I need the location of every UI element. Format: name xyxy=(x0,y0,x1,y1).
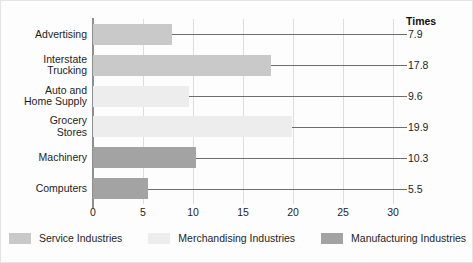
value-label: 9.6 xyxy=(408,90,423,102)
value-leader-line xyxy=(189,96,407,97)
x-axis-tick-labels: 051015202530 xyxy=(93,206,393,222)
gridline-30 xyxy=(393,19,394,204)
legend-label: Manufacturing Industries xyxy=(351,232,466,244)
x-tick-label-25: 25 xyxy=(337,206,349,218)
x-tick-label-5: 5 xyxy=(140,206,146,218)
legend-label: Service Industries xyxy=(39,232,122,244)
value-label: 17.8 xyxy=(408,59,428,71)
legend-label: Merchandising Industries xyxy=(178,232,295,244)
value-leader-line xyxy=(292,127,407,128)
category-label-line: Advertising xyxy=(1,29,87,41)
bar-auto-and-home-supply xyxy=(93,86,189,107)
category-label-line: Machinery xyxy=(1,152,87,164)
x-tick-label-15: 15 xyxy=(237,206,249,218)
value-leader-line xyxy=(172,34,407,35)
category-label-line: Trucking xyxy=(1,65,87,77)
gridline-15 xyxy=(243,19,244,204)
x-tick-label-30: 30 xyxy=(387,206,399,218)
gridline-5 xyxy=(143,19,144,204)
value-label: 5.5 xyxy=(408,183,423,195)
category-label: InterstateTrucking xyxy=(1,54,87,77)
category-label-line: Computers xyxy=(1,183,87,195)
legend-entry: Manufacturing Industries xyxy=(321,232,466,244)
category-axis-labels: AdvertisingInterstateTruckingAuto andHom… xyxy=(1,19,87,204)
x-tick-label-20: 20 xyxy=(287,206,299,218)
plot-area xyxy=(93,19,393,204)
bar-computers xyxy=(93,178,148,199)
value-label: 19.9 xyxy=(408,121,428,133)
category-label: Machinery xyxy=(1,152,87,164)
value-label: 7.9 xyxy=(408,28,423,40)
category-label: Advertising xyxy=(1,29,87,41)
value-label: 10.3 xyxy=(408,152,428,164)
value-leader-line xyxy=(148,189,407,190)
category-label-line: Stores xyxy=(1,127,87,139)
bar-grocery-stores xyxy=(93,116,292,137)
gridline-0 xyxy=(93,19,94,204)
gridline-25 xyxy=(343,19,344,204)
x-tick-label-10: 10 xyxy=(187,206,199,218)
bar-machinery xyxy=(93,147,196,168)
category-label-line: Home Supply xyxy=(1,96,87,108)
value-leader-line xyxy=(271,65,407,66)
legend-swatch-manufacturing xyxy=(321,233,343,244)
bar-interstate-trucking xyxy=(93,55,271,76)
category-label: Computers xyxy=(1,183,87,195)
legend-entry: Merchandising Industries xyxy=(148,232,295,244)
value-column-header: Times xyxy=(406,15,436,27)
legend-swatch-merchandising xyxy=(148,233,170,244)
legend-swatch-service xyxy=(9,233,31,244)
x-tick-label-0: 0 xyxy=(90,206,96,218)
gridline-20 xyxy=(293,19,294,204)
legend-entry: Service Industries xyxy=(9,232,122,244)
value-leader-line xyxy=(196,158,407,159)
bar-advertising xyxy=(93,24,172,45)
gridline-10 xyxy=(193,19,194,204)
category-label: Auto andHome Supply xyxy=(1,85,87,108)
chart-legend: Service IndustriesMerchandising Industri… xyxy=(1,228,473,248)
category-label: GroceryStores xyxy=(1,115,87,138)
bar-chart: AdvertisingInterstateTruckingAuto andHom… xyxy=(0,0,473,263)
value-column: Times 7.917.89.619.910.35.5 xyxy=(399,15,469,210)
